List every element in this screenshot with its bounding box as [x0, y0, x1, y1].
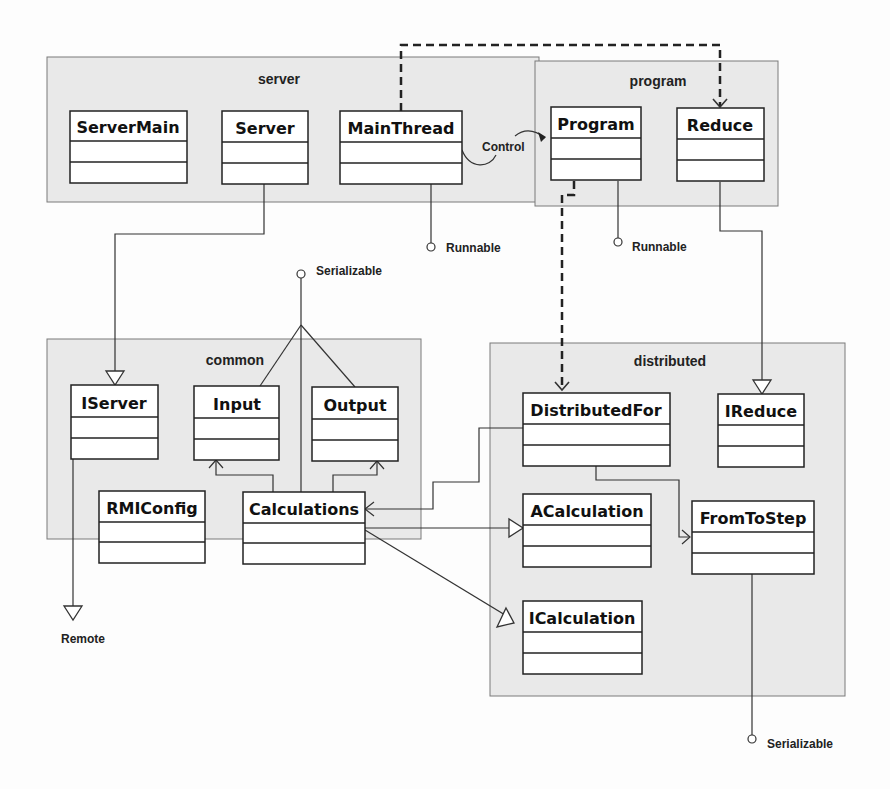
class-name: Server	[235, 119, 295, 138]
class-name: IServer	[81, 394, 147, 413]
remote-label: Remote	[61, 632, 105, 646]
class-server[interactable]: Server	[222, 111, 308, 184]
class-name: ICalculation	[529, 609, 636, 628]
runnable-label: Runnable	[632, 240, 687, 254]
class-name: RMIConfig	[106, 499, 198, 518]
class-mainthread[interactable]: MainThread	[340, 111, 462, 184]
class-servermain[interactable]: ServerMain	[70, 111, 187, 183]
class-distributedfor[interactable]: DistributedFor	[523, 393, 670, 466]
class-name: IReduce	[725, 402, 797, 421]
class-reduce[interactable]: Reduce	[677, 108, 764, 181]
package-title: common	[206, 352, 264, 368]
runnable-label: Runnable	[446, 241, 501, 255]
package-title: distributed	[634, 353, 706, 369]
class-name: Input	[213, 395, 261, 414]
class-name: Reduce	[687, 116, 754, 135]
class-program[interactable]: Program	[551, 107, 641, 180]
package-title: server	[258, 71, 301, 87]
class-input[interactable]: Input	[194, 386, 279, 460]
uml-class-diagram: server program common distributed Contro…	[0, 0, 890, 789]
serializable-label: Serializable	[767, 737, 833, 751]
class-name: Program	[557, 115, 634, 134]
control-label: Control	[482, 140, 525, 154]
class-iserver[interactable]: IServer	[71, 385, 158, 459]
class-fromtostep[interactable]: FromToStep	[692, 501, 814, 574]
class-name: DistributedFor	[530, 401, 661, 420]
interface-lollipop-icon	[748, 735, 756, 743]
class-calculations[interactable]: Calculations	[243, 492, 365, 564]
package-title: program	[630, 73, 687, 89]
triangle-arrow-icon	[64, 606, 82, 620]
class-name: FromToStep	[700, 509, 807, 528]
class-name: ServerMain	[76, 118, 179, 137]
realization-calculations-icalculation	[365, 530, 510, 618]
class-name: MainThread	[348, 119, 455, 138]
interface-lollipop-icon	[297, 270, 305, 278]
class-ireduce[interactable]: IReduce	[718, 394, 804, 467]
class-acalculation[interactable]: ACalculation	[523, 494, 651, 567]
serializable-label: Serializable	[316, 264, 382, 278]
interface-lollipop-icon	[427, 243, 435, 251]
class-name: Calculations	[249, 500, 359, 519]
class-output[interactable]: Output	[312, 387, 398, 461]
interface-lollipop-icon	[614, 238, 622, 246]
class-name: Output	[323, 396, 386, 415]
class-rmiconfig[interactable]: RMIConfig	[99, 491, 205, 563]
class-name: ACalculation	[530, 502, 643, 521]
class-icalculation[interactable]: ICalculation	[523, 601, 642, 674]
